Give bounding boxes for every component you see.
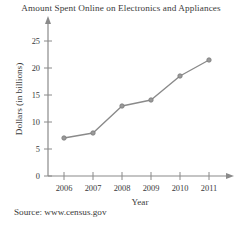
x-tick-label: 2006 (56, 184, 73, 193)
data-point-marker (178, 74, 182, 78)
x-axis-arrow-icon (226, 173, 234, 179)
y-tick-label: 15 (32, 91, 40, 100)
y-tick-label: 25 (32, 37, 40, 46)
line-chart-plot: 0 5 10 15 20 25 2006 2007 2008 2009 2010… (0, 0, 242, 227)
x-tick-label: 2011 (201, 184, 217, 193)
y-tick-label: 20 (32, 64, 40, 73)
data-point-marker (91, 131, 95, 135)
x-tick-label: 2008 (114, 184, 131, 193)
y-tick-label: 0 (36, 172, 40, 181)
y-axis-arrow-icon (45, 16, 51, 24)
axes-group (45, 16, 234, 179)
data-point-marker (120, 104, 124, 108)
y-axis-tick-labels: 0 5 10 15 20 25 (32, 37, 40, 181)
y-axis-title: Dollars (in billions) (14, 63, 24, 135)
source-note: Source: www.census.gov (14, 207, 107, 217)
data-point-marker (207, 58, 211, 62)
y-tick-label: 10 (32, 118, 40, 127)
x-tick-label: 2009 (143, 184, 160, 193)
chart-figure: Amount Spent Online on Electronics and A… (0, 0, 242, 227)
data-point-marker (149, 98, 153, 102)
data-point-markers (62, 58, 211, 140)
data-point-marker (62, 136, 66, 140)
x-tick-label: 2010 (172, 184, 189, 193)
x-axis-tick-labels: 2006 2007 2008 2009 2010 2011 (56, 184, 218, 193)
data-series-line (64, 60, 209, 138)
x-axis-title: Year (132, 197, 149, 207)
y-tick-label: 5 (36, 145, 40, 154)
x-tick-label: 2007 (85, 184, 102, 193)
